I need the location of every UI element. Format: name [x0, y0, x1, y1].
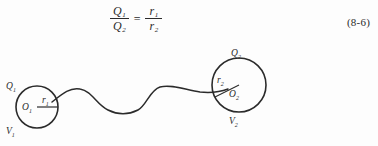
q1-subscript: 1 [122, 11, 126, 19]
q2-subscript: 2 [122, 26, 126, 34]
fraction-radius-ratio: r1 r2 [145, 4, 162, 33]
fraction-numerator-r1: r1 [147, 4, 162, 18]
fraction-charge-ratio: Q1 Q2 [110, 4, 129, 33]
equation-8-6: Q1 Q2 = r1 r2 [110, 4, 162, 33]
fraction-denominator-r2: r2 [147, 19, 162, 33]
sphere-right-potential-label: V2 [229, 116, 238, 128]
sphere-right-radius-label: r2 [217, 75, 224, 87]
sphere-right-charge-label: Q2 [231, 48, 241, 60]
r1-symbol: r [150, 4, 155, 18]
equation-row: Q1 Q2 = r1 r2 (8-6) [0, 4, 378, 40]
q1-symbol: Q [113, 4, 122, 18]
q2-symbol: Q [113, 19, 122, 33]
sphere-left-radius-label: r1 [42, 95, 49, 107]
figure-page: Q1 Q2 = r1 r2 (8-6) Q1 O1 [0, 0, 378, 146]
fraction-numerator-q1: Q1 [110, 4, 129, 18]
connecting-wire [52, 86, 228, 114]
r1-subscript: 1 [155, 11, 159, 19]
equation-number: (8-6) [347, 16, 370, 28]
sphere-left-potential-label: V1 [6, 126, 15, 138]
fraction-denominator-q2: Q2 [110, 19, 129, 33]
r2-subscript: 2 [155, 26, 159, 34]
sphere-right-center-label: O2 [229, 89, 239, 101]
two-sphere-diagram: Q1 O1 r1 V1 Q2 r2 O2 [0, 40, 378, 146]
r2-symbol: r [150, 19, 155, 33]
sphere-left-charge-label: Q1 [6, 81, 16, 93]
sphere-left-center-label: O1 [22, 102, 32, 114]
equals-sign: = [134, 13, 141, 25]
